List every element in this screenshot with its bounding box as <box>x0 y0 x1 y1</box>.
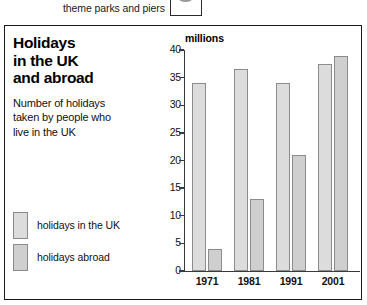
bar-1981-uk <box>234 69 248 271</box>
legend-item-uk: holidays in the UK <box>13 209 153 241</box>
worksheet-fragment: theme parks and piers <box>0 0 367 22</box>
bar-1971-uk <box>192 83 206 271</box>
y-tick-mark <box>179 160 184 161</box>
y-tick-mark <box>179 77 184 78</box>
bar-group-1981 <box>234 50 264 271</box>
x-axis-label-1971: 1971 <box>185 275 229 287</box>
chart-panel: Holidays in the UK and abroad Number of … <box>4 25 362 300</box>
bar-1971-abroad <box>208 249 222 271</box>
chart-heading-block: Holidays in the UK and abroad Number of … <box>13 34 146 139</box>
y-tick-mark <box>179 270 184 271</box>
y-tick-mark <box>179 132 184 133</box>
legend-swatch-uk <box>13 212 28 239</box>
worksheet-question-row: theme parks and piers <box>63 0 202 16</box>
x-axis-label-1981: 1981 <box>227 275 271 287</box>
pencil-mark-icon <box>178 0 193 2</box>
plot-area: millions 0510152025303540 19711981199120… <box>153 26 361 298</box>
bar-2001-uk <box>318 64 332 271</box>
y-tick-mark <box>179 49 184 50</box>
legend-label-uk: holidays in the UK <box>37 219 120 231</box>
chart-legend: holidays in the UK holidays abroad <box>13 209 153 273</box>
y-tick-mark <box>179 215 184 216</box>
x-axis-label-1991: 1991 <box>269 275 313 287</box>
bar-group-1991 <box>276 50 306 271</box>
legend-item-abroad: holidays abroad <box>13 241 153 273</box>
legend-swatch-abroad <box>13 244 28 271</box>
x-axis-label-2001: 2001 <box>311 275 355 287</box>
chart-subtitle: Number of holidays taken by people who l… <box>13 96 146 140</box>
worksheet-question-text: theme parks and piers <box>63 1 165 15</box>
y-tick-mark <box>179 243 184 244</box>
bar-group-1971 <box>192 50 222 271</box>
bars-layer <box>186 26 360 271</box>
bar-2001-abroad <box>334 56 348 271</box>
bar-1991-abroad <box>292 155 306 271</box>
bar-group-2001 <box>318 50 348 271</box>
answer-box[interactable] <box>170 0 202 16</box>
legend-label-abroad: holidays abroad <box>37 251 110 263</box>
y-tick-mark <box>179 105 184 106</box>
y-tick-mark <box>179 187 184 188</box>
bar-1991-uk <box>276 83 290 271</box>
bar-1981-abroad <box>250 199 264 271</box>
chart-title: Holidays in the UK and abroad <box>13 34 146 87</box>
